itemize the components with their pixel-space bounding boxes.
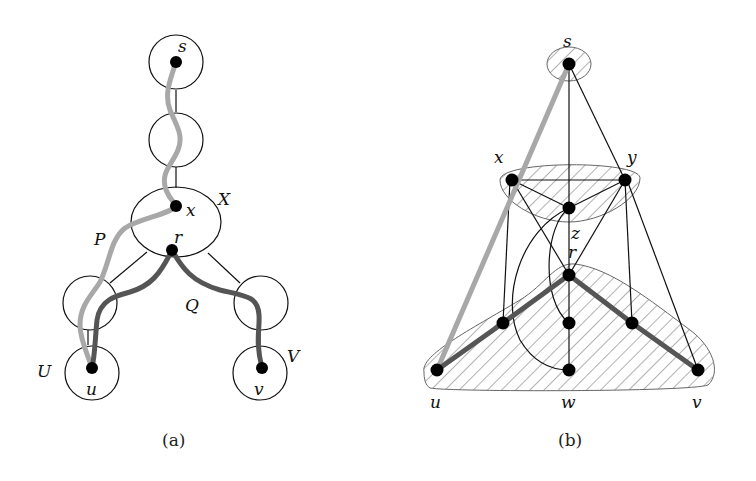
label-z: z (570, 223, 581, 243)
label-y: y (626, 147, 637, 167)
label-v: v (692, 392, 702, 412)
vertex-left-mid (497, 317, 510, 330)
label-x: x (494, 147, 504, 167)
vertex-x (170, 200, 182, 212)
vertex-z (563, 202, 576, 215)
panel-b: s x y z r u w v (b) (424, 31, 715, 450)
label-V: V (287, 346, 301, 366)
vertex-u (431, 364, 444, 377)
vertex-s (170, 56, 182, 68)
vertex-y (619, 174, 632, 187)
label-r: r (568, 242, 577, 262)
vertex-w (563, 364, 576, 377)
vertex-v (692, 364, 705, 377)
label-x: x (186, 200, 196, 220)
caption-a: (a) (162, 430, 185, 450)
vertex-r (563, 269, 576, 282)
label-U: U (37, 361, 52, 381)
figure: s x r u v X P Q U V (a) (0, 0, 756, 481)
label-X: X (216, 189, 231, 209)
caption-b: (b) (558, 430, 582, 450)
label-P: P (93, 229, 106, 249)
label-v: v (254, 379, 264, 399)
vertex-s (563, 58, 576, 71)
vertex-v (256, 362, 268, 374)
bag-edge (208, 253, 240, 283)
bag-edge (110, 252, 147, 283)
label-Q: Q (185, 295, 199, 315)
label-u: u (430, 392, 441, 412)
label-u: u (86, 379, 97, 399)
label-w: w (561, 392, 576, 412)
vertex-x (506, 174, 519, 187)
vertex-right-mid (626, 317, 639, 330)
path-Q (92, 250, 262, 368)
vertex-u (86, 362, 98, 374)
label-r: r (174, 227, 183, 247)
label-s: s (563, 31, 572, 51)
vertex-center-mid (563, 317, 576, 330)
panel-a: s x r u v X P Q U V (a) (37, 35, 301, 450)
label-s: s (178, 36, 187, 56)
